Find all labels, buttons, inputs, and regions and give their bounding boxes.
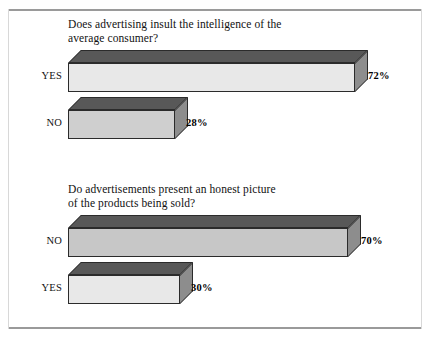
frame-rule-bottom [8,327,422,329]
chart-1-bar-no-top-face [68,97,188,110]
chart-2-category-label-yes: YES [18,282,62,293]
chart-1-bar-no-front-face [68,110,175,139]
chart-1-category-label-yes: YES [18,70,62,81]
chart-2-title-line-1: Do advertisements present an honest pict… [68,183,348,197]
chart-2-bar-no-top-face [68,215,361,228]
chart-1-bar-no [68,97,175,139]
chart-1-bar-yes-front-face [68,63,355,92]
frame-rule-top [8,9,422,11]
chart-2-value-label-no: 70% [361,235,383,246]
chart-1-bar-yes-top-face [68,50,368,63]
chart-1-title: Does advertising insult the intelligence… [68,18,348,45]
figure-container: Does advertising insult the intelligence… [0,0,430,339]
chart-2-title: Do advertisements present an honest pict… [68,183,348,210]
chart-2-value-label-yes: 30% [191,282,213,293]
chart-1-title-line-1: Does advertising insult the intelligence… [68,18,348,32]
chart-2-plot-area: NO 70% YES 30% [0,215,430,320]
chart-1-category-label-no: NO [18,117,62,128]
chart-1-value-label-yes: 72% [368,70,390,81]
chart-2-title-line-2: of the products being sold? [68,197,348,211]
chart-1-plot-area: YES 72% NO 28% [0,50,430,155]
chart-1-title-line-2: average consumer? [68,32,348,46]
chart-2-bar-yes [68,262,180,304]
chart-2-bar-no-front-face [68,228,348,257]
chart-2-bar-yes-front-face [68,275,180,304]
chart-2-category-label-no: NO [18,235,62,246]
chart-1-value-label-no: 28% [186,117,208,128]
chart-1-bar-yes [68,50,355,92]
chart-2-bar-no [68,215,348,257]
chart-2-bar-yes-top-face [68,262,193,275]
